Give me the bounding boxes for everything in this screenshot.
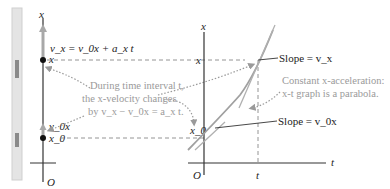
- left-origin-label: O: [47, 176, 55, 188]
- position-dot-x0: [40, 135, 46, 141]
- car-icon-lower: [15, 133, 19, 147]
- left-x-label: x: [48, 53, 54, 65]
- svg-text:x-t graph is a parabola.: x-t graph is a parabola.: [282, 88, 379, 99]
- svg-text:During time interval t,: During time interval t,: [90, 80, 184, 91]
- dotted-arrow-to-vx: [48, 68, 90, 88]
- left-v0x-label: v_0x: [49, 120, 70, 132]
- graph-y-axis-label: x: [200, 20, 206, 32]
- tangent-vx: [239, 25, 275, 108]
- svg-text:the x-velocity changes: the x-velocity changes: [82, 93, 176, 104]
- graph-tick-x: x: [195, 54, 201, 66]
- slope-vx-label: Slope = v_x: [279, 52, 333, 64]
- dotted-arrow-to-parabola: [252, 92, 280, 108]
- left-axis-label: x: [38, 8, 44, 20]
- graph-origin-label: O: [193, 169, 201, 181]
- svg-text:by v_x − v_0x = a_x t.: by v_x − v_0x = a_x t.: [88, 106, 184, 117]
- position-dot-x: [40, 57, 46, 63]
- velocity-equation: v_x = v_0x + a_x t: [50, 42, 135, 54]
- annotation-center: During time interval t, the x-velocity c…: [82, 80, 184, 117]
- slope-v0x-label: Slope = v_0x: [278, 115, 337, 127]
- annotation-right: Constant x-acceleration: x-t graph is a …: [282, 75, 384, 99]
- motion-strip: [12, 8, 22, 180]
- kinematics-diagram: x O v_x = v_0x + a_x t x v_0x x_0 During…: [0, 0, 390, 189]
- graph-tick-t: t: [256, 169, 260, 181]
- graph-x-axis-label: t: [331, 156, 335, 168]
- car-icon-upper: [15, 60, 19, 78]
- svg-text:Constant x-acceleration:: Constant x-acceleration:: [282, 75, 384, 86]
